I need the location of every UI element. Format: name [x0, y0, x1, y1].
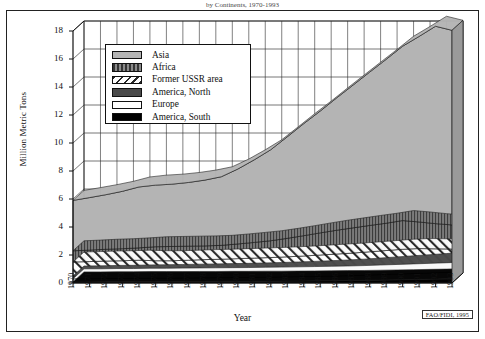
- legend-item: Africa: [106, 61, 250, 73]
- x-axis-tick-label: 1990: [397, 273, 406, 289]
- legend-item: Asia: [106, 49, 250, 61]
- x-axis-tick-label: 1987: [347, 273, 356, 289]
- legend-swatch-white-solid: [112, 101, 142, 110]
- y-axis-label: Million Metric Tons: [18, 92, 32, 167]
- x-axis-tick-label: 1975: [150, 273, 159, 289]
- legend-item-label: Former USSR area: [152, 75, 223, 84]
- legend-item: Former USSR area: [106, 74, 250, 86]
- chart-legend: AsiaAfricaFormer USSR areaAmerica, North…: [105, 44, 251, 124]
- x-axis-tick-label: 1984: [298, 273, 307, 289]
- x-axis-tick-label: 1980: [232, 273, 241, 289]
- legend-item-label: America, South: [152, 113, 210, 122]
- legend-item: America, North: [106, 86, 250, 98]
- x-axis-tick-label: 1989: [380, 273, 389, 289]
- x-axis-tick-label: 1985: [314, 273, 323, 289]
- x-axis-tick-label: 1981: [248, 273, 257, 289]
- legend-swatch-light-gray-solid: [112, 51, 142, 60]
- legend-swatch-dark-gray-solid: [112, 88, 142, 97]
- x-axis-tick-label: 1974: [133, 273, 142, 289]
- x-axis-tick-label: 1991: [413, 273, 422, 289]
- x-axis-tick-label: 1982: [265, 273, 274, 289]
- legend-item-label: Asia: [152, 51, 169, 60]
- legend-swatch-vertical-hatch-dark: [112, 63, 142, 72]
- legend-swatch-diagonal-hatch: [112, 76, 142, 85]
- x-axis-tick-label: 1970: [67, 273, 76, 289]
- x-axis-tick-label: 1979: [216, 273, 225, 289]
- y-axis-tick-label: 6: [41, 193, 63, 203]
- x-axis-tick-label: 1983: [281, 273, 290, 289]
- figure-root: by Continents, 1970-1993 02468101: [0, 0, 485, 339]
- legend-item: Europe: [106, 99, 250, 111]
- legend-item-label: Africa: [152, 63, 176, 72]
- legend-swatch-black-solid: [112, 113, 142, 122]
- legend-item: America, South: [106, 111, 250, 123]
- x-axis-tick-label: 1973: [117, 273, 126, 289]
- y-axis-tick-label: 16: [41, 53, 63, 63]
- y-axis-tick-label: 0: [41, 277, 63, 287]
- x-axis-tick-label: 1992: [430, 273, 439, 289]
- legend-item-label: Europe: [152, 100, 179, 109]
- y-axis-tick-label: 4: [41, 221, 63, 231]
- x-axis-tick-label: 1972: [100, 273, 109, 289]
- y-axis-tick-label: 2: [41, 249, 63, 259]
- y-axis-tick-label: 12: [41, 109, 63, 119]
- x-axis-tick-label: 1977: [183, 273, 192, 289]
- x-axis-tick-label: 1976: [166, 273, 175, 289]
- y-axis-tick-label: 10: [41, 137, 63, 147]
- y-axis-tick-label: 8: [41, 165, 63, 175]
- x-axis-tick-label: 1993: [446, 273, 455, 289]
- x-axis-tick-label: 1988: [364, 273, 373, 289]
- x-axis-label: Year: [0, 313, 485, 323]
- x-axis-tick-label: 1986: [331, 273, 340, 289]
- y-axis-tick-label: 14: [41, 81, 63, 91]
- legend-item-label: America, North: [152, 88, 210, 97]
- source-credit: FAO/FIDI, 1995: [422, 310, 473, 319]
- x-axis-tick-label: 1978: [199, 273, 208, 289]
- x-axis-tick-label: 1971: [84, 273, 93, 289]
- y-axis-tick-label: 18: [41, 25, 63, 35]
